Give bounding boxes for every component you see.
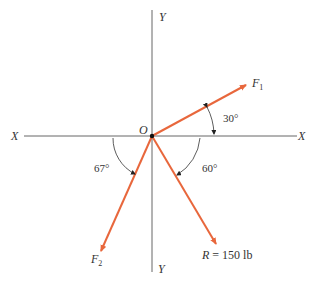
vector-r-label: R = 150 lb: [202, 249, 252, 261]
angle-arc-30: [207, 107, 214, 134]
vector-f2: [101, 136, 152, 251]
angle-label-67: 67°: [94, 163, 109, 174]
angle-label-30: 30°: [223, 113, 238, 124]
angle-label-60: 60°: [202, 163, 217, 174]
vector-f1-label: F1: [252, 77, 263, 92]
angle-arc-67: [113, 138, 135, 174]
force-diagram: Y Y X X O F1 F2 R = 150 lb 30° 67° 60°: [0, 0, 313, 284]
x-axis-right-label: X: [298, 130, 305, 142]
y-axis-top-label: Y: [159, 11, 166, 23]
vector-r: [152, 136, 216, 244]
vector-f1: [152, 85, 246, 136]
x-axis-left-label: X: [11, 130, 18, 142]
origin-point: [150, 134, 154, 138]
diagram-canvas: [0, 0, 313, 284]
angle-arc-60: [177, 138, 200, 175]
vector-f2-label: F2: [91, 253, 102, 268]
origin-label: O: [139, 124, 148, 136]
y-axis-bottom-label: Y: [158, 263, 165, 275]
